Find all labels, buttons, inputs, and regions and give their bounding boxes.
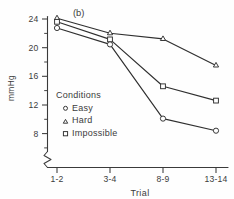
chart-figure: 24 20 16 12 8 mmHg 1-2 3-4 8-9 13-14 Tri… (0, 0, 234, 198)
triangle-marker-icon (213, 62, 218, 67)
circle-marker-icon (107, 42, 112, 47)
legend-item-impossible: Impossible (63, 128, 117, 138)
y-axis-break-icon (44, 152, 51, 168)
x-tick-label-3-4: 3-4 (103, 174, 116, 184)
y-tick-label-12: 12 (29, 100, 39, 110)
series-hard-line (57, 18, 216, 65)
y-axis: 24 20 16 12 8 mmHg (6, 14, 51, 168)
square-marker-icon (63, 132, 67, 136)
y-tick-label-24: 24 (29, 14, 39, 24)
x-tick-label-1-2: 1-2 (50, 174, 63, 184)
legend-item-hard: Hard (63, 115, 92, 125)
legend-label-hard: Hard (72, 115, 93, 125)
y-tick-label-20: 20 (29, 43, 39, 53)
x-tick-label-8-9: 8-9 (156, 174, 169, 184)
legend-title: Conditions (56, 90, 101, 100)
y-axis-title: mmHg (6, 75, 16, 101)
chart-canvas: 24 20 16 12 8 mmHg 1-2 3-4 8-9 13-14 Tri… (0, 0, 234, 198)
legend-label-easy: Easy (72, 103, 93, 113)
y-tick-label-16: 16 (29, 71, 39, 81)
circle-marker-icon (64, 106, 68, 110)
circle-marker-icon (213, 128, 218, 133)
panel-label: (b) (73, 7, 84, 18)
legend: Conditions Easy Hard Impossible (56, 90, 118, 138)
x-axis-title: Trial (130, 188, 149, 198)
series-impossible-line (57, 22, 216, 101)
circle-marker-icon (160, 116, 165, 121)
square-marker-icon (161, 84, 166, 89)
y-tick-label-8: 8 (34, 129, 39, 139)
triangle-marker-icon (63, 119, 67, 123)
triangle-marker-icon (107, 30, 112, 35)
x-axis: 1-2 3-4 8-9 13-14 Trial (48, 168, 229, 199)
legend-item-easy: Easy (64, 103, 94, 113)
circle-marker-icon (54, 25, 59, 30)
x-tick-label-13-14: 13-14 (205, 174, 228, 184)
series-hard (54, 15, 218, 67)
square-marker-icon (108, 37, 113, 42)
square-marker-icon (214, 98, 219, 103)
square-marker-icon (55, 19, 60, 24)
legend-label-impossible: Impossible (72, 128, 118, 138)
triangle-marker-icon (160, 36, 165, 41)
